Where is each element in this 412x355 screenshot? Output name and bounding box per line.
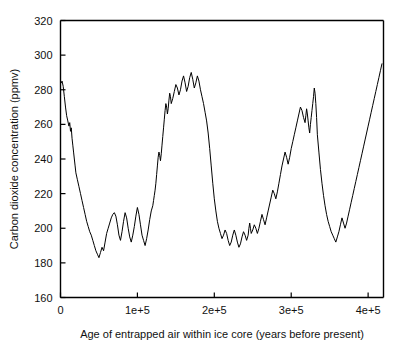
x-axis-title: Age of entrapped air within ice core (ye… [80, 328, 364, 340]
co2-line-chart: 16018020022024026028030032001e+52e+53e+5… [0, 0, 412, 355]
y-axis-title: Carbon dioxide concentration (ppmv) [8, 69, 20, 249]
x-tick-label: 1e+5 [125, 304, 150, 316]
y-tick-label: 240 [34, 153, 52, 165]
x-tick-label: 4e+5 [356, 304, 381, 316]
x-tick-label: 2e+5 [202, 304, 227, 316]
y-tick-label: 300 [34, 49, 52, 61]
y-tick-label: 220 [34, 188, 52, 200]
x-tick-label: 0 [57, 304, 63, 316]
y-tick-label: 280 [34, 84, 52, 96]
y-tick-label: 320 [34, 15, 52, 27]
y-tick-label: 260 [34, 118, 52, 130]
y-tick-label: 200 [34, 222, 52, 234]
y-tick-label: 180 [34, 257, 52, 269]
x-tick-label: 3e+5 [279, 304, 304, 316]
series-line-co2 [61, 64, 382, 258]
chart-figure: 16018020022024026028030032001e+52e+53e+5… [0, 0, 412, 355]
y-tick-label: 160 [34, 292, 52, 304]
